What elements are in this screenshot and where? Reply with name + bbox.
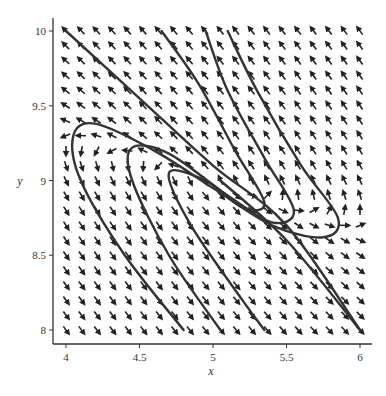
- field-arrow: [79, 207, 84, 215]
- field-arrow: [325, 224, 334, 227]
- field-arrow: [264, 42, 270, 49]
- field-arrow: [109, 118, 116, 124]
- field-arrow: [108, 134, 116, 138]
- field-arrow: [343, 176, 347, 184]
- field-arrow: [264, 117, 269, 124]
- field-arrow: [280, 282, 286, 289]
- field-arrow: [249, 42, 255, 49]
- field-arrow: [233, 207, 239, 214]
- field-arrow: [249, 27, 255, 34]
- field-arrow: [310, 223, 318, 227]
- field-arrow: [295, 297, 301, 304]
- field-arrow: [125, 58, 131, 65]
- y-axis-label: y: [16, 174, 23, 188]
- field-arrow: [78, 73, 85, 79]
- field-arrow: [141, 252, 146, 259]
- field-arrow: [156, 102, 162, 109]
- trajectory-curves: [66, 31, 360, 330]
- field-arrow: [81, 146, 83, 155]
- field-arrow: [79, 192, 83, 200]
- field-arrow: [187, 326, 193, 333]
- field-arrow: [141, 192, 146, 200]
- x-tick-label: 4.5: [133, 351, 147, 363]
- field-arrow: [125, 282, 130, 289]
- field-arrow: [249, 267, 255, 274]
- y-tick-label: 9.5: [32, 100, 46, 112]
- field-arrow: [358, 176, 362, 184]
- field-arrow: [202, 222, 208, 229]
- field-arrow: [141, 326, 147, 333]
- field-arrow: [218, 312, 224, 319]
- field-arrow: [311, 162, 316, 170]
- field-arrow: [156, 312, 162, 319]
- y-tick-labels: 88.599.510: [32, 25, 53, 336]
- field-arrow: [280, 57, 285, 64]
- field-arrow: [156, 58, 162, 65]
- field-arrow: [140, 88, 146, 95]
- field-arrow: [79, 252, 84, 259]
- field-arrow: [341, 267, 348, 273]
- field-arrow: [63, 281, 68, 288]
- field-arrow: [295, 282, 301, 289]
- field-arrow: [249, 147, 254, 154]
- field-arrow: [125, 311, 130, 318]
- field-arrow: [233, 267, 239, 274]
- field-arrow: [264, 72, 269, 79]
- field-arrow: [64, 176, 68, 184]
- field-arrow: [95, 176, 99, 184]
- field-arrow: [357, 42, 362, 49]
- field-arrow: [233, 222, 239, 229]
- field-arrow: [62, 103, 69, 108]
- field-arrow: [295, 102, 300, 109]
- field-arrow: [141, 297, 146, 304]
- field-arrow: [311, 87, 316, 94]
- field-arrow: [172, 176, 176, 184]
- field-arrow: [125, 267, 130, 274]
- field-arrow: [202, 117, 208, 124]
- field-arrow: [265, 132, 270, 139]
- field-arrow: [109, 58, 115, 65]
- field-arrow: [156, 87, 162, 94]
- field-arrow: [171, 117, 177, 124]
- field-arrow: [342, 132, 347, 140]
- field-arrow: [280, 42, 285, 49]
- field-arrow: [342, 57, 347, 64]
- field-arrow: [342, 27, 347, 34]
- field-arrow: [141, 311, 146, 318]
- field-arrow: [358, 162, 362, 170]
- field-arrow: [187, 57, 193, 64]
- field-arrow: [187, 102, 193, 109]
- field-arrow: [78, 58, 84, 64]
- field-arrow: [188, 176, 192, 184]
- field-arrow: [156, 192, 161, 200]
- field-arrow: [187, 237, 193, 244]
- field-arrow: [280, 72, 285, 79]
- field-arrow: [295, 267, 301, 273]
- field-arrow: [63, 43, 69, 49]
- field-arrow: [111, 161, 113, 170]
- field-arrow: [172, 326, 178, 333]
- field-arrow: [249, 57, 255, 64]
- field-arrow: [140, 133, 147, 139]
- field-arrow: [110, 176, 114, 184]
- field-arrow: [110, 192, 115, 200]
- field-arrow: [202, 207, 208, 214]
- field-arrow: [280, 102, 285, 109]
- field-arrow: [141, 176, 145, 184]
- y-tick-label: 10: [35, 25, 47, 37]
- field-arrow: [311, 327, 317, 334]
- field-arrow: [202, 42, 208, 49]
- field-arrow: [171, 57, 177, 64]
- field-arrow: [62, 119, 70, 122]
- field-arrow: [280, 312, 286, 319]
- field-arrow: [328, 191, 331, 200]
- field-arrow: [326, 42, 331, 49]
- field-arrow: [110, 282, 115, 289]
- field-arrow: [94, 103, 101, 109]
- y-tick-label: 8.5: [32, 249, 46, 261]
- field-arrow: [325, 238, 332, 243]
- field-arrow: [280, 87, 285, 94]
- field-arrow: [310, 282, 316, 288]
- field-arrow: [110, 252, 115, 259]
- field-arrow: [342, 147, 347, 155]
